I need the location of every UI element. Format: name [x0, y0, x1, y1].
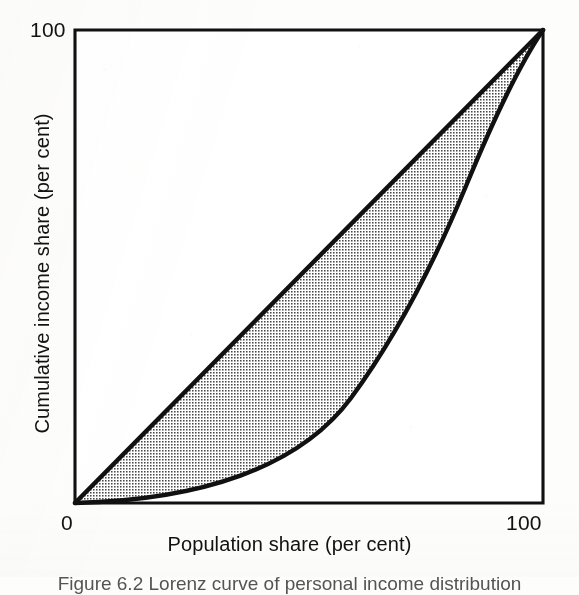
- x-axis-title: Population share (per cent): [0, 533, 579, 556]
- figure-caption-partial: Figure 6.2 Lorenz curve of personal inco…: [0, 573, 579, 595]
- y-axis-tick-100: 100: [30, 19, 66, 40]
- x-axis-tick-100: 100: [506, 512, 542, 533]
- y-axis-title: Cumulative income share (per cent): [31, 64, 54, 484]
- axis-tick-origin-0: 0: [61, 512, 73, 533]
